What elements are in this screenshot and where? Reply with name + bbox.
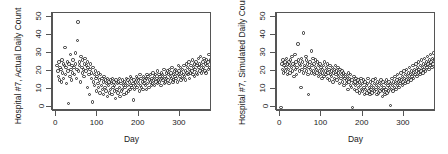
y-axis-tick-label: 40 (36, 29, 44, 38)
data-point (73, 73, 76, 76)
data-point (196, 73, 199, 76)
x-axis-line-right (276, 110, 435, 111)
data-point (389, 104, 392, 107)
y-axis-tick-label: 50 (36, 11, 44, 20)
data-point (208, 66, 211, 69)
data-point (207, 53, 210, 56)
data-point (79, 80, 82, 83)
plot-area-simulated (276, 12, 435, 110)
y-axis-tick-label: 10 (260, 84, 268, 93)
y-axis-tick (46, 52, 51, 53)
x-axis-tick-label: 200 (355, 118, 368, 127)
scatter-plot-figure: Hospital #7, Actual Daily Count Day 0102… (0, 0, 448, 154)
y-axis-title-simulated: Hospital #7, Simulated Daily Count (237, 7, 247, 125)
y-axis-tick-label: 30 (36, 47, 44, 56)
x-axis-title-actual: Day (52, 134, 211, 144)
y-axis-tick (270, 88, 275, 89)
x-axis-tick (320, 111, 321, 116)
data-point (433, 58, 435, 61)
data-point (102, 93, 105, 96)
y-axis-tick-label: 40 (260, 29, 268, 38)
data-point (279, 106, 282, 109)
y-axis-tick (270, 16, 275, 17)
x-axis-tick (55, 111, 56, 116)
data-point (331, 80, 334, 83)
y-axis-tick (270, 106, 275, 107)
y-axis-title-actual: Hospital #7, Actual Daily Count (13, 7, 23, 125)
plot-area-actual (52, 12, 211, 110)
x-axis-tick (179, 111, 180, 116)
data-point (431, 62, 434, 65)
data-point (74, 62, 77, 65)
data-point (76, 20, 79, 23)
data-point (70, 78, 73, 81)
data-point (76, 39, 79, 42)
data-point (346, 88, 349, 91)
data-point (184, 78, 187, 81)
data-point (77, 69, 80, 72)
data-point (69, 53, 72, 56)
data-point (64, 73, 67, 76)
y-axis-tick (270, 70, 275, 71)
panel-simulated-daily-count: Hospital #7, Simulated Daily Count Day 0… (224, 0, 448, 154)
data-point (106, 95, 109, 98)
data-point (430, 66, 433, 69)
y-axis-tick (270, 34, 275, 35)
data-point (88, 93, 91, 96)
data-point (310, 49, 313, 52)
data-point (299, 64, 302, 67)
x-axis-title-simulated: Day (276, 134, 435, 144)
data-point (159, 84, 162, 87)
y-axis-tick-label: 50 (260, 11, 268, 20)
data-point (60, 80, 63, 83)
data-point (91, 100, 94, 103)
data-point (209, 58, 211, 61)
y-axis-tick-label: 10 (36, 84, 44, 93)
data-point (188, 77, 191, 80)
x-axis-tick-label: 0 (277, 118, 281, 127)
data-point (397, 86, 400, 89)
x-axis-tick (96, 111, 97, 116)
data-point (295, 73, 298, 76)
data-point (110, 93, 113, 96)
data-point (65, 82, 68, 85)
data-point (67, 102, 70, 105)
x-axis-tick (403, 111, 404, 116)
y-axis-tick-label: 0 (38, 104, 46, 108)
panel-actual-daily-count: Hospital #7, Actual Daily Count Day 0102… (0, 0, 224, 154)
x-axis-tick-label: 100 (90, 118, 103, 127)
data-point (307, 93, 310, 96)
x-axis-tick (362, 111, 363, 116)
data-point (302, 31, 305, 34)
y-axis-tick (270, 52, 275, 53)
x-axis-tick (279, 111, 280, 116)
data-point (75, 77, 78, 80)
x-axis-tick-label: 200 (131, 118, 144, 127)
data-point (204, 71, 207, 74)
x-axis-tick-label: 300 (396, 118, 409, 127)
y-axis-tick-label: 20 (260, 66, 268, 75)
data-point (141, 88, 144, 91)
data-point (299, 86, 302, 89)
data-point (351, 106, 354, 109)
data-point (432, 51, 435, 54)
y-axis-tick (46, 88, 51, 89)
y-axis-tick (46, 16, 51, 17)
y-axis-tick (46, 34, 51, 35)
x-axis-tick-label: 0 (53, 118, 57, 127)
data-point (132, 98, 135, 101)
y-axis-tick (46, 106, 51, 107)
data-point (74, 51, 77, 54)
y-axis-tick (46, 70, 51, 71)
x-axis-line-left (52, 110, 211, 111)
data-point (293, 53, 296, 56)
x-axis-tick (138, 111, 139, 116)
data-point (82, 75, 85, 78)
x-axis-tick-label: 100 (314, 118, 327, 127)
y-axis-tick-label: 20 (36, 66, 44, 75)
data-point (296, 42, 299, 45)
data-point (86, 86, 89, 89)
y-axis-tick-label: 30 (260, 47, 268, 56)
x-axis-tick-label: 300 (172, 118, 185, 127)
y-axis-tick-label: 0 (262, 104, 270, 108)
